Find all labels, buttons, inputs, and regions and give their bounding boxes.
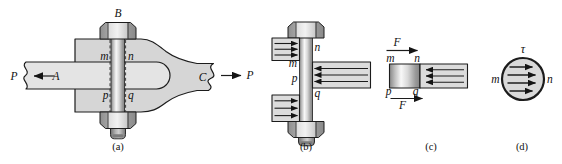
panel-b: n m p q (b) <box>272 22 371 153</box>
label-section-q-b: q <box>315 87 321 100</box>
panel-c-labels: F m n p q F (c) <box>385 36 438 153</box>
label-section-n-d: n <box>547 73 553 85</box>
label-section-p-b: p <box>291 72 298 85</box>
label-section-q: q <box>128 89 134 102</box>
label-section-m: m <box>100 50 108 62</box>
caption-c: (c) <box>425 141 437 153</box>
bolt-shaft-b <box>300 23 313 136</box>
label-bar-a: A <box>51 70 60 82</box>
label-section-m-d: m <box>491 73 499 85</box>
top-nut <box>100 23 136 40</box>
panel-c: F m n p q F (c) <box>385 36 468 153</box>
bottom-nut <box>100 112 136 129</box>
label-section-p-c: p <box>385 85 392 98</box>
label-section-p: p <box>102 89 109 102</box>
label-section-n-c: n <box>414 52 420 64</box>
caption-d: (d) <box>516 141 529 153</box>
figure-root: B P A C P m n p q (a) <box>9 7 553 154</box>
label-section-m-c: m <box>386 52 394 64</box>
label-force-f-bottom: F <box>398 99 407 111</box>
bolt-cross-section <box>502 58 544 100</box>
panel-d: τ m n (d) <box>491 42 553 153</box>
top-nut-b <box>288 22 324 38</box>
label-section-n: n <box>128 50 134 62</box>
label-load-p-right: P <box>245 69 253 81</box>
label-shear-stress-tau: τ <box>521 42 526 56</box>
caption-b: (b) <box>300 141 313 153</box>
label-section-m-b: m <box>289 57 297 69</box>
bottom-nut-b <box>288 122 324 138</box>
caption-a: (a) <box>112 141 124 153</box>
label-load-p-left: P <box>9 70 17 82</box>
label-member-c: C <box>199 71 207 83</box>
label-force-f-top: F <box>392 36 401 48</box>
bolt-tip-band <box>113 134 124 137</box>
shear-connection-figure: B P A C P m n p q (a) <box>0 0 562 164</box>
figure-canvas: B P A C P m n p q (a) <box>0 0 562 164</box>
panel-a: B P A C P m n p q (a) <box>9 7 253 154</box>
label-section-q-c: q <box>413 85 419 98</box>
label-section-n-b: n <box>315 41 321 53</box>
label-bolt-b: B <box>114 7 121 19</box>
